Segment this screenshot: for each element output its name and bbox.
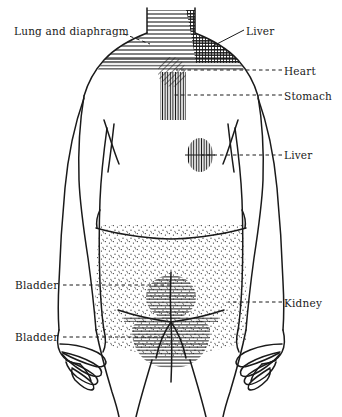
label-kidney: Kidney [284, 297, 322, 309]
region-bladder-tab-left [124, 317, 146, 322]
label-liver-flank: Liver [284, 149, 313, 161]
region-heart [158, 57, 186, 87]
label-bladder-lower: Bladder [15, 331, 58, 343]
label-bladder-upper: Bladder [15, 279, 58, 291]
label-lung-and-diaphragm: Lung and diaphragm [14, 25, 129, 37]
region-bladder-tab-right [196, 317, 218, 322]
label-heart: Heart [284, 65, 316, 77]
anatomy-diagram [0, 0, 342, 417]
label-liver-shoulder: Liver [246, 25, 275, 37]
label-stomach: Stomach [284, 90, 332, 102]
